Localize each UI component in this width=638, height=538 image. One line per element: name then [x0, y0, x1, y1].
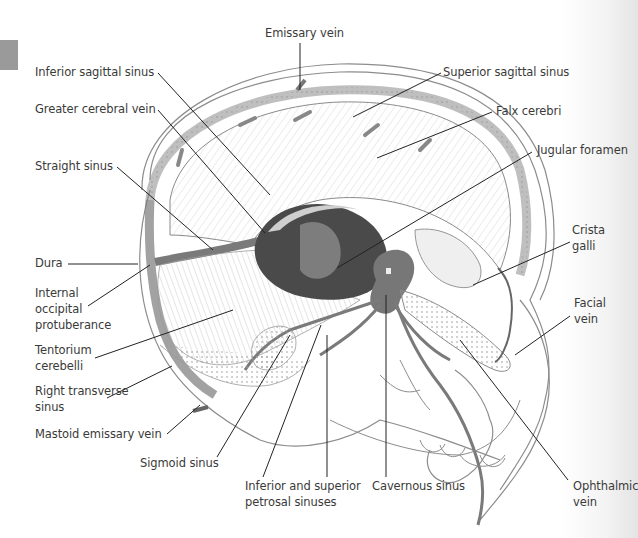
label-cavernous-sinus: Cavernous sinus	[372, 478, 465, 494]
label-straight-sinus: Straight sinus	[35, 158, 113, 174]
label-dura: Dura	[35, 255, 63, 271]
label-right-transverse-sinus: Right transverse sinus	[35, 383, 129, 415]
label-internal-occipital-protuberance: Internal occipital protuberance	[35, 285, 111, 333]
label-superior-sagittal-sinus: Superior sagittal sinus	[443, 64, 569, 80]
orbit-structure	[400, 290, 510, 371]
label-greater-cerebral-vein: Greater cerebral vein	[35, 101, 156, 117]
label-crista-galli: Crista galli	[572, 222, 605, 254]
label-ophthalmic-vein: Ophthalmic vein	[573, 478, 638, 510]
label-inferior-superior-petrosal-sinuses: Inferior and superior petrosal sinuses	[245, 478, 361, 510]
mandible-teeth	[330, 360, 520, 467]
label-jugular-foramen: Jugular foramen	[537, 142, 628, 158]
label-sigmoid-sinus: Sigmoid sinus	[140, 455, 219, 471]
label-mastoid-emissary-vein: Mastoid emissary vein	[35, 426, 162, 442]
label-tentorium-cerebelli: Tentorium cerebelli	[35, 342, 92, 374]
label-inferior-sagittal-sinus: Inferior sagittal sinus	[35, 64, 154, 80]
label-falx-cerebri: Falx cerebri	[496, 103, 561, 119]
skull-illustration	[0, 0, 638, 538]
label-emissary-vein: Emissary vein	[265, 25, 344, 41]
label-facial-vein: Facial vein	[574, 295, 606, 327]
anatomy-figure: Emissary vein Inferior sagittal sinus Su…	[0, 0, 638, 538]
